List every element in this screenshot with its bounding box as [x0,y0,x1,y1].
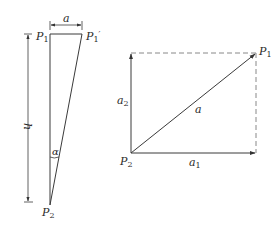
vector-a [131,54,255,153]
label-a1: a1 [189,156,201,170]
label-p1-prime: P1′ [85,29,101,44]
label-angle-alpha: α [52,146,59,157]
right-figure: P1 P2 a2 a1 a [117,45,272,170]
slanted-edge [50,34,82,205]
label-p1-left: P1 [35,30,49,44]
label-width-a: a [63,12,70,25]
label-a2: a2 [117,94,129,108]
left-figure: P1 P1′ P2 a h α [21,12,101,220]
diagram-canvas: P1 P1′ P2 a h α P1 P2 a2 a1 a [0,0,278,227]
angle-arc [50,157,59,158]
label-p2-left: P2 [41,206,55,220]
label-a-resultant: a [195,103,202,116]
label-p1-right: P1 [258,45,272,59]
label-height-h: h [21,123,34,130]
label-p2-right: P2 [119,155,133,169]
